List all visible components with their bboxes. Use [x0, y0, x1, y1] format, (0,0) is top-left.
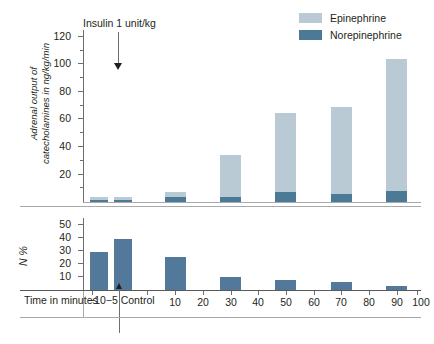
bar-n-60 [275, 280, 296, 291]
bar-adrenal-20 [165, 192, 186, 202]
x-tick-label-80: 80 [363, 297, 375, 308]
y-tick-minor-10 [80, 187, 83, 188]
n-tick-40: 40 [78, 237, 83, 238]
bar-adrenal-100 [386, 59, 407, 202]
x-tick-70 [341, 291, 342, 295]
y-tick-minor-50 [80, 132, 83, 133]
bar-adrenal-80 [331, 107, 352, 202]
bar-segment-norepinephrine [331, 194, 352, 202]
x-tick-80 [369, 291, 370, 295]
x-tick-label-40: 40 [252, 297, 264, 308]
x-tick-100 [417, 291, 418, 295]
x-tick-label-20: 20 [197, 297, 209, 308]
n-tick-20: 20 [78, 263, 83, 264]
y-tick-100: 100 [78, 63, 83, 64]
y-tick-minor-30 [80, 160, 83, 161]
bar-segment-norepinephrine [275, 192, 296, 202]
x-tick-label-10: 10 [169, 297, 181, 308]
insulin-time-marker-arrow-icon [116, 283, 122, 289]
bar-n--10 [90, 252, 108, 290]
y-axis-line-top [83, 30, 84, 202]
x-tick-label-30: 30 [225, 297, 237, 308]
x-tick-label-100: 100 [412, 297, 430, 308]
y-tick-minor-90 [80, 77, 83, 78]
bar-segment-epinephrine [220, 155, 241, 202]
y-tick-40: 40 [78, 146, 83, 147]
x-tick-label-60: 60 [308, 297, 320, 308]
x-tick-30 [231, 291, 232, 295]
x-tick-20 [203, 291, 204, 295]
y-tick-60: 60 [78, 118, 83, 119]
n-tick-label-30: 30 [59, 245, 71, 255]
n-tick-50: 50 [78, 224, 83, 225]
bar-n-40 [220, 277, 241, 290]
y-axis-line-bottom [83, 218, 84, 290]
y-tick-label-20: 20 [59, 169, 71, 179]
n-tick-10: 10 [78, 276, 83, 277]
x-tick-40 [258, 291, 259, 295]
figure-bottom-rule [20, 317, 421, 318]
x-tick-10 [175, 291, 176, 295]
control-group-label: −10−5 Control [88, 294, 155, 306]
plot-n-percent: 10 20 30 40 50 [83, 218, 421, 290]
bar-segment-norepinephrine [386, 191, 407, 202]
legend-swatch-epinephrine [299, 13, 322, 23]
plot-adrenal-output: 20 40 60 80 100 120 [83, 30, 421, 202]
y-axis-title-top: Adrenal output of catecholamines in ng/k… [28, 39, 51, 169]
legend-label-epinephrine: Epinephrine [330, 13, 386, 24]
bar-n-20 [165, 257, 186, 290]
insulin-time-marker-line [119, 287, 120, 333]
y-tick-label-80: 80 [59, 86, 71, 96]
bar-segment-epinephrine [275, 113, 296, 202]
y-tick-label-100: 100 [53, 58, 71, 68]
x-tick-label-70: 70 [335, 297, 347, 308]
y-tick-label-120: 120 [53, 31, 71, 41]
x-tick-50 [286, 291, 287, 295]
x-axis-block-label: Time in minutes [24, 294, 98, 306]
y-tick-80: 80 [78, 91, 83, 92]
n-tick-label-40: 40 [59, 232, 71, 242]
x-tick-label-90: 90 [391, 297, 403, 308]
n-tick-label-20: 20 [59, 258, 71, 268]
x-tick-60 [314, 291, 315, 295]
x-tick-label-50: 50 [280, 297, 292, 308]
y-tick-120: 120 [78, 36, 83, 37]
n-tick-30: 30 [78, 250, 83, 251]
y-tick-label-60: 60 [59, 113, 71, 123]
bar-n-80 [331, 282, 352, 290]
y-tick-label-40: 40 [59, 141, 71, 151]
insulin-annotation-label: Insulin 1 unit/kg [83, 17, 156, 29]
figure-root: Epinephrine Norepinephrine Insulin 1 uni… [0, 0, 434, 344]
panel-separator-line [20, 206, 421, 207]
bar-segment-epinephrine [331, 107, 352, 202]
y-tick-20: 20 [78, 174, 83, 175]
y-tick-minor-110 [80, 50, 83, 51]
n-tick-label-10: 10 [59, 271, 71, 281]
top-plot-baseline [83, 202, 421, 203]
bar-adrenal-60 [275, 113, 296, 202]
y-tick-minor-70 [80, 105, 83, 106]
n-tick-label-50: 50 [59, 219, 71, 229]
bar-segment-epinephrine [386, 59, 407, 202]
bar-adrenal-40 [220, 155, 241, 202]
x-tick-90 [397, 291, 398, 295]
y-axis-title-bottom: N % [17, 238, 29, 274]
legend-item-epinephrine: Epinephrine [299, 11, 402, 25]
